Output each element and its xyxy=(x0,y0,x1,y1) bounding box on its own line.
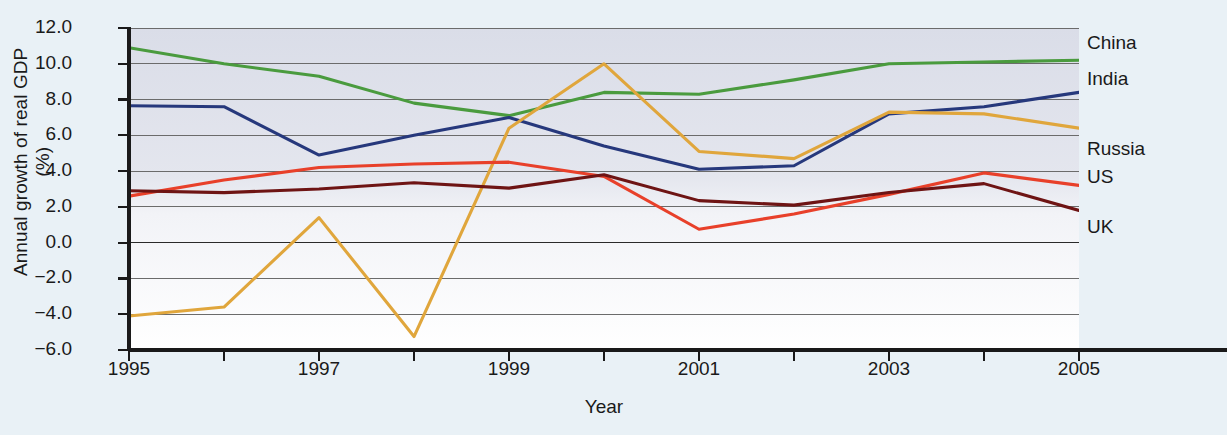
series-label-us: US xyxy=(1087,166,1113,188)
x-tick-label: 2003 xyxy=(868,358,910,380)
x-tick-label: 1997 xyxy=(298,358,340,380)
y-tick-label: 8.0 xyxy=(46,88,72,110)
series-label-china: China xyxy=(1087,32,1137,54)
series-label-russia: Russia xyxy=(1087,138,1145,160)
x-tick-label: 1999 xyxy=(488,358,530,380)
y-tick-label: 12.0 xyxy=(35,16,72,38)
y-tick-label: −4.0 xyxy=(34,302,72,324)
plot-area xyxy=(0,0,1227,435)
series-label-uk: UK xyxy=(1087,216,1113,238)
y-tick-label: −2.0 xyxy=(34,266,72,288)
x-tick-label: 1995 xyxy=(108,358,150,380)
gdp-growth-line-chart: Annual growth of real GDP (%) Year 12.01… xyxy=(0,0,1227,435)
y-tick-label: 0.0 xyxy=(46,231,72,253)
x-tick-label: 2001 xyxy=(678,358,720,380)
y-tick-label: 10.0 xyxy=(35,52,72,74)
y-tick-label: 4.0 xyxy=(46,159,72,181)
x-tick-label: 2005 xyxy=(1058,358,1100,380)
y-tick-label: 2.0 xyxy=(46,195,72,217)
y-tick-label: −6.0 xyxy=(34,338,72,360)
series-label-india: India xyxy=(1087,68,1128,90)
y-tick-label: 6.0 xyxy=(46,123,72,145)
